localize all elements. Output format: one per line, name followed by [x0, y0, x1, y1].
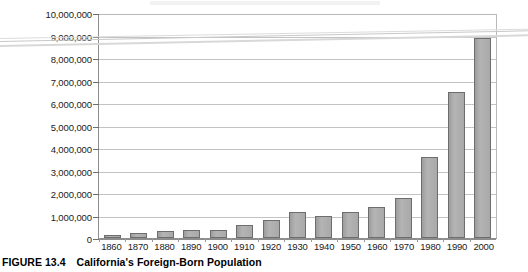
bar-slot: [284, 15, 310, 238]
x-axis-tick-label: 1950: [337, 241, 364, 255]
bar-slot: [364, 15, 390, 238]
bar: [104, 235, 121, 238]
bar: [289, 212, 306, 238]
figure-caption: FIGURE 13.4California's Foreign-Born Pop…: [2, 256, 262, 268]
y-axis-tick-label: 9,000,000: [0, 31, 92, 42]
y-axis-tick-label: 10,000,000: [0, 9, 92, 20]
x-axis-tick-label: 1940: [311, 241, 338, 255]
y-axis-tick-label: 8,000,000: [0, 54, 92, 65]
y-axis-tick-label: 4,000,000: [0, 144, 92, 155]
y-axis-tick-label: 3,000,000: [0, 166, 92, 177]
bar: [263, 220, 280, 238]
y-axis-tick-label: 5,000,000: [0, 121, 92, 132]
bar-slot: [337, 15, 363, 238]
bar: [368, 207, 385, 239]
x-axis-tick-label: 1960: [364, 241, 391, 255]
x-axis-tick-label: 2000: [470, 241, 497, 255]
bar: [474, 38, 491, 238]
bar-slot: [390, 15, 416, 238]
bar-slot: [152, 15, 178, 238]
y-axis-tick-label: 7,000,000: [0, 76, 92, 87]
bar: [421, 157, 438, 238]
bar-slot: [443, 15, 469, 238]
x-axis-tick-label: 1890: [178, 241, 205, 255]
x-axis-tick-label: 1870: [125, 241, 152, 255]
x-axis-tick-label: 1860: [98, 241, 125, 255]
x-axis-tick-label: 1930: [284, 241, 311, 255]
x-axis-tick-label: 1990: [444, 241, 471, 255]
x-axis-labels: 1860187018801890190019101920193019401950…: [98, 241, 497, 255]
scan-artifact-smudge: [150, 1, 380, 5]
y-axis-tick-label: 1,000,000: [0, 211, 92, 222]
x-axis-tick-label: 1900: [204, 241, 231, 255]
bar: [448, 92, 465, 238]
bar-slot: [125, 15, 151, 238]
x-axis-tick-label: 1980: [417, 241, 444, 255]
bar-series: [99, 15, 496, 238]
bar: [157, 231, 174, 238]
bar: [342, 212, 359, 238]
figure-number: FIGURE 13.4: [2, 256, 66, 268]
plot-area: [98, 14, 497, 239]
bar-slot: [311, 15, 337, 238]
x-axis-tick-label: 1880: [151, 241, 178, 255]
bar: [210, 230, 227, 238]
bar-slot: [99, 15, 125, 238]
y-axis-labels: 10,000,0009,000,0008,000,0007,000,0006,0…: [0, 14, 92, 239]
bar: [130, 233, 147, 238]
bar: [395, 198, 412, 239]
gridline: [99, 239, 496, 240]
bar-slot: [417, 15, 443, 238]
bar-slot: [258, 15, 284, 238]
y-axis-tick-label: 0: [0, 234, 92, 245]
x-axis-tick-label: 1920: [258, 241, 285, 255]
x-axis-tick-label: 1970: [391, 241, 418, 255]
y-axis-tick-label: 2,000,000: [0, 189, 92, 200]
figure-title: California's Foreign-Born Population: [77, 256, 262, 268]
x-axis-tick-label: 1910: [231, 241, 258, 255]
bar-slot: [470, 15, 496, 238]
bar: [315, 216, 332, 239]
bar-slot: [231, 15, 257, 238]
y-axis-tick-label: 6,000,000: [0, 99, 92, 110]
bar: [236, 225, 253, 238]
bar-slot: [205, 15, 231, 238]
bar-slot: [178, 15, 204, 238]
bar: [183, 230, 200, 238]
